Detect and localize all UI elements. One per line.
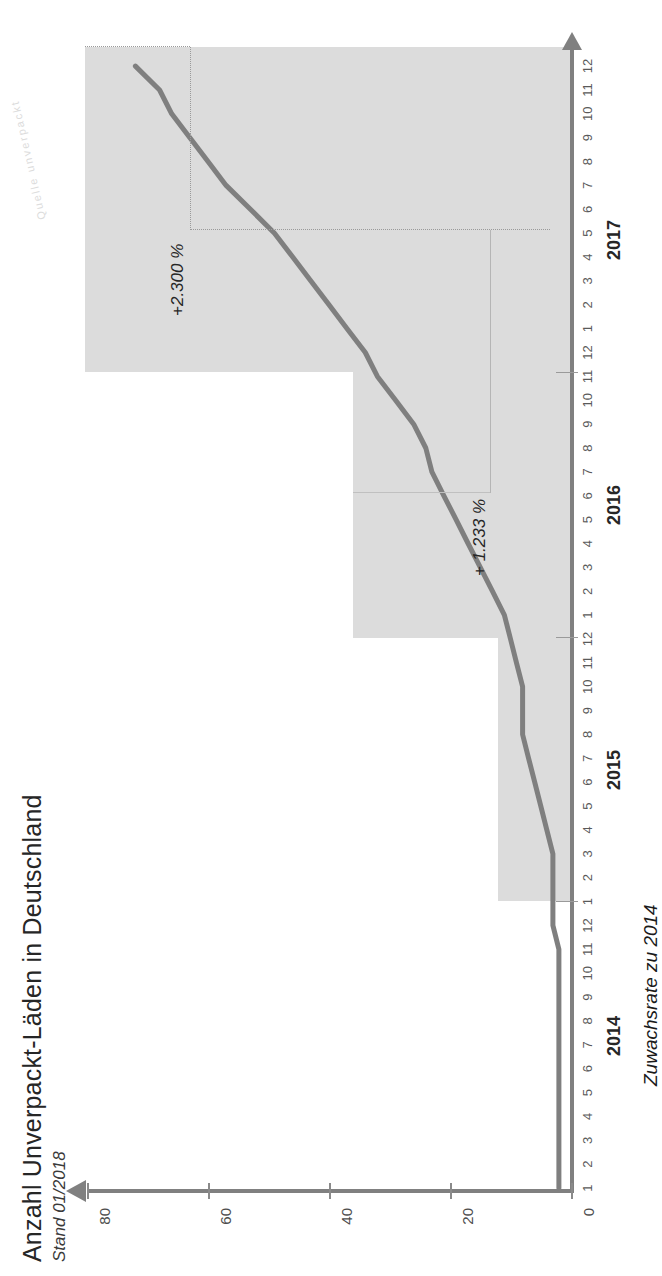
x-axis-month-tick-2014-6: 6: [580, 1058, 595, 1080]
x-axis-month-tick-2014-11: 11: [580, 938, 595, 960]
x-axis-month-tick-2014-2: 2: [580, 1153, 595, 1175]
x-axis-month-tick-2015-12: 12: [580, 628, 595, 650]
y-tick-40: [329, 1183, 331, 1199]
x-axis-month-tick-2014-8: 8: [580, 1010, 595, 1032]
x-axis-month-tick-2015-9: 9: [580, 700, 595, 722]
x-axis-month-tick-2016-3: 3: [580, 556, 595, 578]
y-tick-label-40: 40: [338, 1208, 355, 1248]
x-axis-arrow-icon: [562, 32, 582, 50]
x-axis-year-label-2015: 2015: [604, 710, 625, 830]
year-divider-2017: [556, 372, 578, 373]
x-axis-month-tick-2015-7: 7: [580, 747, 595, 769]
band-2016: [353, 350, 570, 638]
annotation-growth-2017: +2.300 %: [168, 244, 188, 316]
y-tick-60: [208, 1183, 210, 1199]
x-axis-month-tick-2014-10: 10: [580, 962, 595, 984]
annotation-growth-2016: + 1.233 %: [470, 499, 490, 576]
x-axis-month-tick-2017-5: 5: [580, 222, 595, 244]
x-axis-month-tick-2017-3: 3: [580, 270, 595, 292]
x-axis-month-tick-2015-5: 5: [580, 795, 595, 817]
x-axis-month-tick-2017-12: 12: [580, 55, 595, 77]
y-tick-label-80: 80: [96, 1208, 113, 1248]
y-tick-label-60: 60: [217, 1208, 234, 1248]
x-axis-month-tick-2015-4: 4: [580, 819, 595, 841]
y-tick-label-20: 20: [459, 1208, 476, 1248]
x-axis-month-tick-2016-7: 7: [580, 461, 595, 483]
x-axis-month-tick-2017-7: 7: [580, 174, 595, 196]
x-axis-month-tick-2016-8: 8: [580, 437, 595, 459]
plot-area: 0 20 40 60 80 12345678910111212345678910…: [0, 0, 662, 1276]
x-axis-month-tick-2014-9: 9: [580, 986, 595, 1008]
x-axis-month-tick-2017-4: 4: [580, 246, 595, 268]
x-axis-month-tick-2016-2: 2: [580, 580, 595, 602]
y-axis-arrow-icon: [66, 1180, 86, 1202]
x-axis-month-tick-2016-1: 1: [580, 604, 595, 626]
x-axis-month-tick-2015-6: 6: [580, 771, 595, 793]
x-axis-month-tick-2015-8: 8: [580, 723, 595, 745]
chart-canvas: Anzahl Unverpackt-Läden in Deutschland S…: [0, 0, 662, 1276]
x-axis-month-tick-2017-9: 9: [580, 127, 595, 149]
year-divider-2015: [556, 901, 578, 902]
x-axis-month-tick-2016-9: 9: [580, 413, 595, 435]
y-tick-20: [450, 1183, 452, 1199]
band-2017: [85, 47, 570, 372]
bracket-2017-leader: [190, 47, 191, 230]
bracket-2016-leader: [490, 230, 491, 493]
x-axis-month-tick-2016-11: 11: [580, 365, 595, 387]
x-axis-month-tick-2014-7: 7: [580, 1034, 595, 1056]
bracket-2017-top: [85, 46, 190, 47]
y-tick-label-0: 0: [580, 1208, 597, 1248]
x-axis-year-label-2014: 2014: [604, 976, 625, 1096]
y-tick-80: [87, 1183, 89, 1199]
x-axis-month-tick-2015-2: 2: [580, 867, 595, 889]
x-axis-month-tick-2017-11: 11: [580, 79, 595, 101]
x-axis-month-tick-2017-1: 1: [580, 318, 595, 340]
x-axis-month-tick-2017-8: 8: [580, 151, 595, 173]
x-axis-month-tick-2016-6: 6: [580, 485, 595, 507]
x-axis-month-tick-2015-1: 1: [580, 891, 595, 913]
bracket-outer-left: [190, 229, 550, 230]
x-axis-month-tick-2017-2: 2: [580, 294, 595, 316]
x-axis-month-tick-2017-6: 6: [580, 198, 595, 220]
x-axis-month-tick-2016-4: 4: [580, 533, 595, 555]
bracket-2016-stem: [353, 492, 490, 493]
x-axis-month-tick-2014-5: 5: [580, 1082, 595, 1104]
x-axis-month-tick-2014-1: 1: [580, 1177, 595, 1199]
x-axis-month-tick-2016-12: 12: [580, 342, 595, 364]
x-axis-month-tick-2014-3: 3: [580, 1129, 595, 1151]
x-axis-month-tick-2015-3: 3: [580, 843, 595, 865]
x-axis-line: [570, 47, 574, 1193]
annotation-group-label: Zuwachsrate zu 2014: [640, 904, 662, 1086]
x-axis-year-label-2016: 2016: [604, 445, 625, 565]
x-axis-month-tick-2017-10: 10: [580, 103, 595, 125]
x-axis-month-tick-2015-11: 11: [580, 652, 595, 674]
x-axis-month-tick-2016-5: 5: [580, 509, 595, 531]
x-axis-month-tick-2015-10: 10: [580, 676, 595, 698]
band-2015: [498, 615, 570, 901]
x-axis-month-tick-2014-4: 4: [580, 1105, 595, 1127]
year-divider-2016: [556, 637, 578, 638]
rotated-chart-stage: Anzahl Unverpackt-Läden in Deutschland S…: [0, 0, 662, 1276]
x-axis-month-tick-2016-10: 10: [580, 389, 595, 411]
y-tick-0: [571, 1183, 573, 1199]
x-axis-year-label-2017: 2017: [604, 180, 625, 300]
x-axis-month-tick-2014-12: 12: [580, 914, 595, 936]
